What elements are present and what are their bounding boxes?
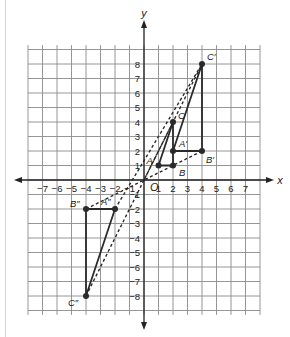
vertex-point (170, 119, 176, 125)
vertex-label: C″ (68, 297, 79, 308)
y-tick-label: 7 (135, 73, 140, 84)
x-tick-label: −3 (95, 183, 106, 194)
y-tick-label: 3 (135, 131, 140, 142)
x-tick-label: 2 (170, 183, 175, 194)
y-tick-label: 4 (135, 117, 140, 128)
vertex-label: A′ (178, 138, 188, 149)
x-tick-label: 3 (185, 183, 190, 194)
y-tick-label: −3 (129, 218, 140, 229)
x-tick-label: −6 (52, 183, 63, 194)
vertex-point (83, 293, 89, 299)
y-tick-label: −1 (129, 189, 140, 200)
x-tick-label: 4 (199, 183, 204, 194)
vertex-label: C′ (207, 51, 217, 62)
y-tick-label: 2 (135, 146, 140, 157)
vertex-point (199, 148, 205, 154)
x-tick-label: 7 (243, 183, 248, 194)
vertex-label: C (178, 110, 185, 121)
vertex-point (170, 163, 176, 169)
y-tick-label: −8 (129, 291, 140, 302)
coordinate-plane: xyO−7−6−5−4−3−2−1123456787654321−1−2−3−4… (0, 0, 290, 337)
x-axis-left-arrow-icon (14, 177, 22, 183)
x-axis-right-arrow-icon (266, 177, 274, 183)
vertex-point (156, 163, 162, 169)
vertex-point (199, 61, 205, 67)
vertex-point (112, 206, 118, 212)
y-tick-label: 1 (135, 160, 140, 171)
labels: xyO−7−6−5−4−3−2−1123456787654321−1−2−3−4… (37, 7, 283, 308)
vertex-point (83, 206, 89, 212)
vertex-label: A″ (100, 196, 111, 207)
y-axis-down-arrow-icon (141, 322, 147, 330)
x-tick-label: −2 (110, 183, 121, 194)
y-tick-label: −7 (129, 276, 140, 287)
y-tick-label: 5 (135, 102, 140, 113)
vertex-label: A (146, 155, 153, 166)
x-tick-label: −5 (66, 183, 77, 194)
vertex-label: B″ (70, 198, 80, 209)
y-tick-label: −2 (129, 204, 140, 215)
y-tick-label: −6 (129, 262, 140, 273)
y-tick-label: −5 (129, 247, 140, 258)
x-tick-label: −4 (81, 183, 92, 194)
x-tick-label: 5 (214, 183, 219, 194)
triangle-abc (159, 122, 174, 166)
y-tick-label: 6 (135, 88, 140, 99)
vertex-point (170, 148, 176, 154)
y-tick-label: −4 (129, 233, 140, 244)
vertex-label: B′ (206, 154, 215, 165)
x-tick-label: 6 (228, 183, 233, 194)
y-axis-up-arrow-icon (141, 20, 147, 28)
vertex-label: B (179, 167, 186, 178)
x-tick-label: 1 (156, 183, 161, 194)
y-tick-label: 8 (135, 59, 140, 70)
x-axis-label: x (276, 174, 283, 186)
axes (14, 20, 274, 330)
x-tick-label: −7 (37, 183, 48, 194)
y-axis-label: y (140, 7, 148, 19)
